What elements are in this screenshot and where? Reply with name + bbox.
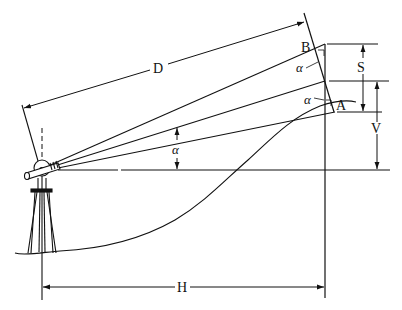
label-alpha-top: α bbox=[296, 60, 304, 75]
right-angle-mark-top bbox=[318, 50, 324, 56]
ground-profile bbox=[15, 101, 356, 254]
ray-to-middle bbox=[48, 81, 325, 168]
D-dimension-line-right bbox=[168, 22, 304, 64]
label-A: A bbox=[336, 98, 347, 113]
stadia-diagram: D B A α α S V α H bbox=[0, 0, 402, 310]
label-alpha-mid: α bbox=[304, 92, 312, 107]
D-extension-line bbox=[22, 105, 40, 168]
label-S: S bbox=[357, 60, 365, 75]
alpha-top-leader bbox=[306, 62, 318, 68]
diagram-canvas: D B A α α S V α H bbox=[0, 0, 402, 310]
alpha-mid-leader bbox=[314, 98, 324, 100]
label-V: V bbox=[371, 121, 381, 136]
label-B: B bbox=[301, 40, 310, 55]
D-dimension-line-left bbox=[24, 70, 150, 108]
ray-to-A bbox=[48, 112, 335, 170]
ray-to-B bbox=[48, 44, 325, 166]
label-alpha-instrument: α bbox=[172, 142, 180, 157]
label-D: D bbox=[153, 61, 163, 76]
label-H: H bbox=[177, 280, 187, 295]
